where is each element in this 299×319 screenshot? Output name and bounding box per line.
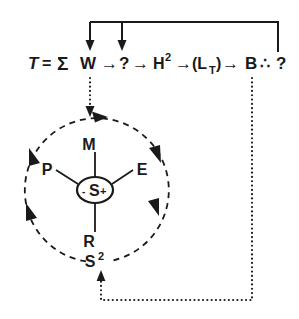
term-W: W <box>80 54 97 73</box>
term-LT-open: (L <box>192 55 207 72</box>
b-to-s2-dotted-feedback <box>97 78 252 300</box>
bracket-path <box>90 22 278 52</box>
circle-bottom-label: S 2 <box>85 250 104 270</box>
label-M: M <box>82 136 95 153</box>
circle-arrowhead-upper-right <box>149 145 161 163</box>
bracket-arrowhead-w <box>86 40 95 51</box>
label-E: E <box>137 161 148 178</box>
term-LT-subscript: T <box>209 64 216 76</box>
b-dotted-arrowhead <box>97 270 106 281</box>
term-arrow-3: → <box>175 54 192 73</box>
term-question-2: ? <box>276 54 286 73</box>
term-equals: = <box>42 55 51 72</box>
label-P: P <box>42 161 53 178</box>
top-equation-row: T = Σ W → ? → H 2 → (L T ) → B ∴ ? <box>28 51 286 76</box>
circle-arrowhead-upper-left <box>29 148 40 166</box>
diagram-canvas: T = Σ W → ? → H 2 → (L T ) → B ∴ ? <box>0 0 299 319</box>
term-LT-close: ) <box>216 55 221 72</box>
term-H-superscript: 2 <box>165 51 171 63</box>
term-arrow-1: → <box>101 54 118 73</box>
hub-node: - S + <box>77 177 113 203</box>
term-T: T <box>28 54 40 73</box>
term-arrow-2: → <box>132 54 149 73</box>
bracket-arrowhead-q1 <box>118 40 127 51</box>
circle-arrowhead-top <box>92 112 108 123</box>
circle-arrowhead-lower-left <box>26 203 37 221</box>
term-H: H <box>153 55 165 72</box>
hub-minus-sign: - <box>82 186 85 197</box>
spoke-E <box>112 170 133 184</box>
label-S: S <box>85 253 96 270</box>
w-to-circle-dotted-arrow <box>86 78 95 117</box>
circle-arrowhead-lower-right <box>148 198 159 216</box>
hub-letter: S <box>89 182 100 199</box>
label-S-superscript: 2 <box>98 250 104 262</box>
term-therefore: ∴ <box>260 55 270 72</box>
hub-plus-sign: + <box>100 185 106 197</box>
label-R: R <box>83 233 95 250</box>
diagram-svg: T = Σ W → ? → H 2 → (L T ) → B ∴ ? <box>0 0 299 319</box>
term-B: B <box>245 54 257 73</box>
b-dotted-path <box>101 78 252 300</box>
top-feedback-bracket <box>86 22 279 52</box>
term-arrow-4: → <box>222 54 239 73</box>
spoke-P <box>56 170 78 184</box>
term-question-1: ? <box>119 54 129 73</box>
term-sigma: Σ <box>57 53 68 74</box>
